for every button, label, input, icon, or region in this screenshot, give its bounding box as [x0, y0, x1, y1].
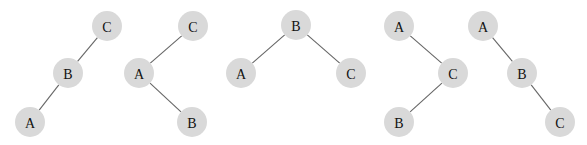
- node-b: B: [53, 58, 83, 88]
- edge-b-a: [252, 35, 284, 63]
- node-a: A: [384, 11, 414, 41]
- edge-a-b: [493, 38, 513, 62]
- node-c: C: [92, 11, 122, 41]
- node-c: C: [178, 11, 208, 41]
- node-c: C: [438, 58, 468, 88]
- edge-b-c: [307, 35, 339, 63]
- node-label: C: [102, 20, 111, 35]
- tree-2-edges: [150, 36, 182, 112]
- node-b: B: [281, 10, 311, 40]
- edge-a-b: [150, 83, 181, 112]
- node-label: B: [291, 19, 300, 34]
- node-b: B: [384, 107, 414, 137]
- node-label: C: [346, 67, 355, 82]
- node-b: B: [507, 58, 537, 88]
- edges-layer: [39, 35, 551, 112]
- node-label: C: [555, 116, 564, 131]
- node-label: B: [63, 67, 72, 82]
- node-label: B: [517, 67, 526, 82]
- edge-b-c: [531, 85, 551, 110]
- edge-b-a: [39, 85, 59, 110]
- node-b: B: [177, 107, 207, 137]
- node-a: A: [226, 58, 256, 88]
- node-label: A: [394, 20, 405, 35]
- edge-c-a: [150, 36, 181, 63]
- node-a: A: [124, 58, 154, 88]
- node-c: C: [336, 58, 366, 88]
- node-label: A: [134, 67, 145, 82]
- node-label: B: [394, 116, 403, 131]
- node-label: B: [187, 116, 196, 131]
- edge-c-b: [410, 83, 442, 112]
- node-a: A: [15, 107, 45, 137]
- tree-5: ABC: [468, 11, 575, 137]
- binary-search-trees-diagram: CBACABBACACBABC: [0, 0, 587, 145]
- tree-1: CBA: [15, 11, 122, 137]
- node-a: A: [468, 11, 498, 41]
- node-label: C: [448, 67, 457, 82]
- node-label: A: [25, 116, 36, 131]
- tree-4: ACB: [384, 11, 468, 137]
- tree-2: CAB: [124, 11, 208, 137]
- node-c: C: [545, 107, 575, 137]
- tree-3: BAC: [226, 10, 366, 88]
- nodes-layer: CBACABBACACBABC: [15, 10, 575, 137]
- edge-a-c: [410, 36, 441, 63]
- node-label: A: [236, 67, 247, 82]
- node-label: C: [188, 20, 197, 35]
- tree-4-edges: [410, 36, 442, 112]
- edge-c-b: [78, 38, 98, 62]
- node-label: A: [478, 20, 489, 35]
